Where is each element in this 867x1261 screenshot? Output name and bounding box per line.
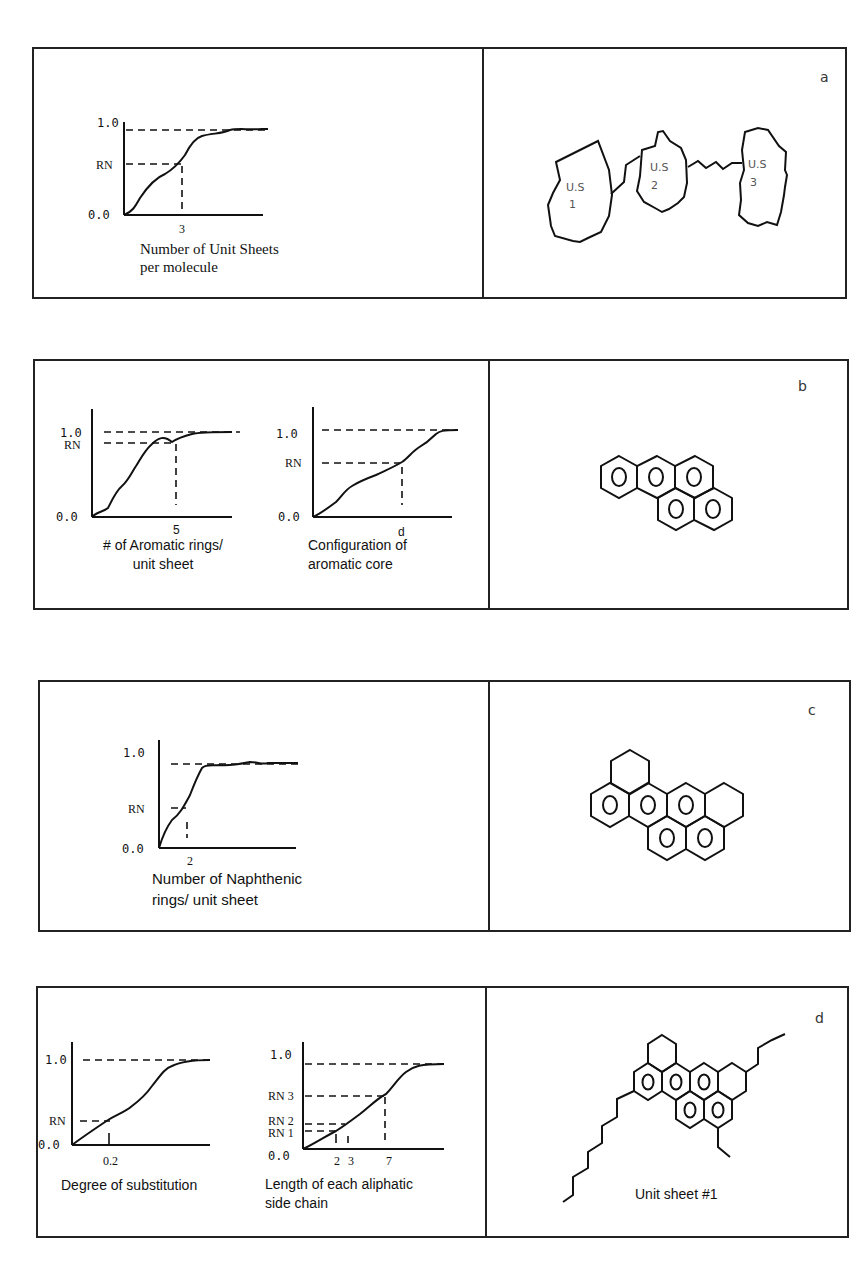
aliphatic-chain-ethyl (718, 1128, 730, 1157)
unit-sheet-1-molecule (0, 0, 867, 1261)
panel-d-diagram-caption: Unit sheet #1 (635, 1185, 718, 1204)
aliphatic-chain-long (563, 1091, 634, 1202)
aliphatic-chain-right (746, 1034, 785, 1072)
